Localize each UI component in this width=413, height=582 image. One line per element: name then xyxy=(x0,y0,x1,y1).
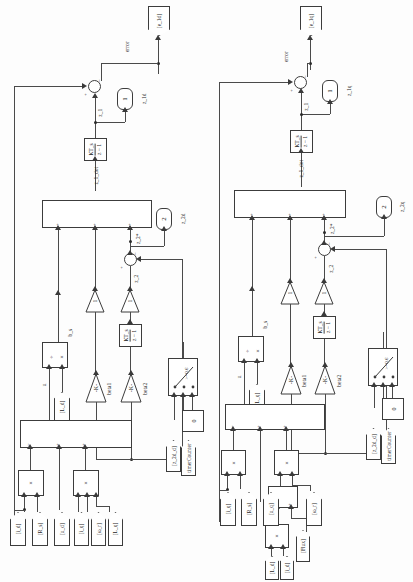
inport-omega-label-right: [ω_r] xyxy=(311,503,317,515)
inport-id-label-left: [i_d] xyxy=(15,524,21,535)
arrow-switch-in2-right xyxy=(380,382,386,387)
product-symbol-3-right: × xyxy=(274,534,280,537)
signal-z2-label-left: z_2 xyxy=(134,275,140,283)
wire-z1-left xyxy=(95,98,96,138)
inport-flux-right: [Flux] xyxy=(296,530,310,562)
arrow-divide-out-left xyxy=(55,290,61,295)
wire-z1q-h-right xyxy=(301,114,330,115)
arrow-switch-in1-left xyxy=(171,392,177,397)
const-z1d-value-left: 1 xyxy=(121,97,129,101)
sum-error-sign-plus-right: + xyxy=(289,89,294,92)
wire-lower-in2-left xyxy=(59,448,60,510)
from-Ld-left: [L_d] xyxy=(54,392,70,422)
gain-unit1-left: 1 xyxy=(86,290,104,312)
gain-beta1-left: -K- xyxy=(86,374,106,402)
const-z1q-value-right: 1 xyxy=(326,89,334,93)
arrow-prod1-in1-left xyxy=(21,492,27,497)
wire-sumbar-in1-left xyxy=(58,228,59,294)
wire-outport-right xyxy=(310,40,311,70)
from-timercounter-label-right: timerCounter xyxy=(386,431,392,460)
signal-z1-label-right: z_1 xyxy=(304,103,310,111)
wire-switch-in1-right xyxy=(374,386,375,408)
arrow-integ-bottom-right xyxy=(321,311,327,316)
integrator-top-den-right: z − 1 xyxy=(302,136,308,147)
signal-z2star-label-right: z_2* xyxy=(330,223,336,234)
wire-feedback-right xyxy=(219,82,288,83)
gain-beta1-value-left: -K- xyxy=(93,384,99,392)
product-symbol-2-right: × xyxy=(283,461,289,464)
arrow-sumbar-in3-right xyxy=(321,215,327,220)
arrow-z1d-left xyxy=(122,107,128,112)
signal-z1-label-left: z_1 xyxy=(98,109,104,117)
wire-divide-in1-right xyxy=(244,362,245,410)
from-timercounter-right: timerCounter xyxy=(381,428,396,464)
signal-bs-label-right: b_s xyxy=(263,321,269,329)
arrow-sumz2-feed-right xyxy=(330,246,335,252)
integrator-bottom-right: KT_s z − 1 xyxy=(313,316,336,339)
arrow-integ-top-right xyxy=(298,148,304,153)
integrator-bottom-den-left: z − 1 xyxy=(131,330,137,341)
wire-sumz2-feed-left xyxy=(140,259,182,260)
arrow-prod2-in3-left xyxy=(93,492,99,497)
const-z1d-tag-left: z_1d xyxy=(142,93,148,104)
inport-flux-label-right: [Flux] xyxy=(300,539,306,553)
arrow-lower-in2-right xyxy=(257,426,263,431)
wire-gain-unit1-in-left xyxy=(95,312,96,374)
arrow-divide-in1-right xyxy=(241,358,247,363)
arrow-prod1-in2-right xyxy=(237,471,243,476)
from-z2dd-label-left: [z_2d_d] xyxy=(171,446,177,466)
wire-switch-in3-right xyxy=(392,386,393,398)
inport-ld-label-right: [L_d] xyxy=(269,562,275,575)
arrow-prod2-in1-left xyxy=(75,492,81,497)
from-z2dd-label-right: [z_2d_d] xyxy=(371,434,377,454)
arrow-sumbar-in1-left xyxy=(55,225,61,230)
integrator-top-fraction-right: KT_s z − 1 xyxy=(295,135,308,147)
from-z2dd-right: [z_2d_d] xyxy=(366,428,381,460)
gain-beta2-value-right: -K- xyxy=(322,376,328,384)
wire-id-tie-left xyxy=(14,510,25,511)
wire-divide-in2-left xyxy=(62,368,63,392)
gain-beta2-right: -K- xyxy=(315,366,335,394)
from-timercounter-left: timerCounter xyxy=(181,440,196,476)
inport-lq-label-left: [L_q] xyxy=(113,523,119,536)
inport-iq-left: [i_q] xyxy=(74,512,89,546)
arrow-divide-in2-left xyxy=(59,364,65,369)
wire-sumbar-in2-left xyxy=(95,228,96,294)
switch-criteria-left: >=0.6 xyxy=(184,368,189,380)
inport-id-left: [i_d] xyxy=(10,512,26,546)
inport-rs-label-right: [R_s] xyxy=(246,503,252,515)
signal-u-label-left: u xyxy=(42,383,48,386)
integrator-bottom-fraction-left: KT_s z − 1 xyxy=(124,329,137,341)
sum-z2-sign-plus-left: + xyxy=(119,266,124,269)
wire-gain-unit1-in-right xyxy=(290,304,291,366)
junction-z2star-right xyxy=(323,231,326,234)
junction-z1-right xyxy=(300,113,303,116)
arrow-switch-in2-left xyxy=(180,392,186,397)
wire-divide-in2-right xyxy=(257,362,258,384)
wire-outport-left xyxy=(158,40,159,74)
wire-error-up-left xyxy=(101,63,102,81)
wire-error-up-right xyxy=(307,63,308,77)
from-z2dd-left: [z_2d_d] xyxy=(166,440,181,472)
signal-z2star-label-left: z_2* xyxy=(136,233,142,244)
arrow-prod3-in1-right xyxy=(268,544,274,549)
arrow-prod2-in2-right xyxy=(289,471,295,476)
arrow-gain-beta1-left xyxy=(93,370,99,375)
arrow-sumsmall-in2-right xyxy=(288,504,294,509)
switch-block-right: >=0.6 xyxy=(368,348,398,386)
wire-z2q-right xyxy=(384,218,385,236)
sum-z2-sign-minus-left: − xyxy=(133,252,138,255)
wire-prod3-in2-right xyxy=(283,548,284,556)
product-symbol-divide-right: × xyxy=(255,349,261,352)
outport-e1q-right: [e_1q] xyxy=(300,6,322,36)
gain-beta1-right: -K- xyxy=(281,366,301,394)
wire-sumz2-feed-right xyxy=(334,249,386,250)
const-z2q-value-right: 2 xyxy=(380,205,388,209)
arrow-gain-unit1-right xyxy=(287,278,293,283)
const-z2d-tag-left: z_2d xyxy=(181,213,187,224)
arrow-gain-beta2-left xyxy=(128,370,134,375)
wire-feedback-vert-left xyxy=(14,86,15,516)
signal-z1dot-label-left: z_1_dot xyxy=(94,167,100,185)
inport-ld-right: [L_d] xyxy=(265,556,279,580)
inport-omega-label-left: [ω_r] xyxy=(96,523,102,535)
